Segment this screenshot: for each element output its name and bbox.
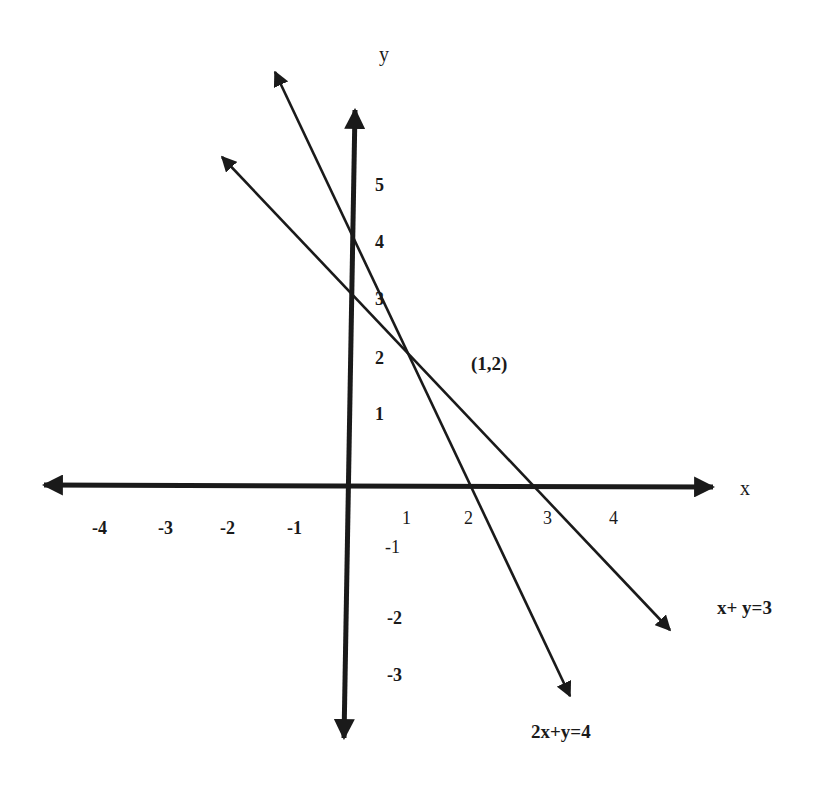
y-tick-3: 3 [375, 290, 384, 308]
line-label-2x-plus-y-eq-4: 2x+y=4 [531, 722, 591, 741]
y-axis-label: y [379, 44, 389, 64]
x-tick-1: 1 [402, 509, 411, 527]
y-tick-4: 4 [375, 233, 384, 251]
y-axis [344, 110, 355, 738]
x-tick-neg4: -4 [92, 519, 107, 537]
x-tick-3: 3 [543, 509, 552, 527]
x-tick-neg3: -3 [158, 519, 173, 537]
y-tick-neg3: -3 [387, 666, 402, 684]
intersection-point-label: (1,2) [471, 354, 507, 373]
x-tick-4: 4 [609, 509, 618, 527]
coordinate-graph [0, 0, 823, 799]
y-tick-5: 5 [375, 176, 384, 194]
x-tick-neg1: -1 [287, 519, 302, 537]
x-tick-neg2: -2 [220, 519, 235, 537]
line-x-plus-y-eq-3 [222, 157, 670, 630]
y-tick-2: 2 [375, 349, 384, 367]
y-tick-1: 1 [375, 405, 384, 423]
line-2x-plus-y-eq-4 [275, 72, 570, 696]
y-tick-neg1: -1 [385, 538, 400, 556]
y-tick-neg2: -2 [387, 609, 402, 627]
x-tick-2: 2 [464, 509, 473, 527]
line-label-x-plus-y-eq-3: x+ y=3 [717, 598, 772, 617]
x-axis-label: x [740, 478, 750, 498]
x-axis [44, 485, 713, 487]
